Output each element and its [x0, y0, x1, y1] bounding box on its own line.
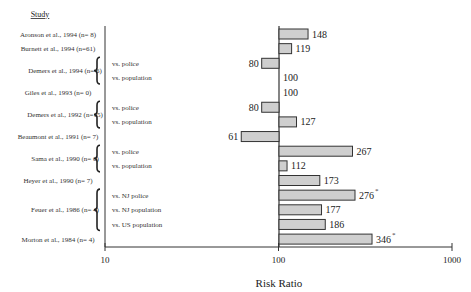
value-label: 148	[312, 29, 327, 40]
subgroup-label: vs. NJ police	[112, 192, 148, 200]
study-label: Giles et al., 1993 (n= 0)	[25, 89, 92, 97]
value-label: 119	[296, 43, 311, 54]
value-label: 80	[249, 58, 259, 69]
subgroup-label: vs. population	[112, 118, 152, 126]
subgroup-label: vs. population	[112, 74, 152, 82]
x-axis-label: Risk Ratio	[256, 277, 303, 289]
risk-ratio-bar	[279, 117, 297, 127]
risk-ratio-bar	[279, 176, 320, 186]
value-label: 100	[283, 87, 298, 98]
study-label: Demers et al., 1992 (n=15)	[27, 111, 103, 119]
risk-ratio-bar	[279, 29, 308, 39]
risk-ratio-bar	[279, 219, 325, 229]
study-label: Feuer et al., 1986 (n= 4)	[31, 206, 100, 214]
forest-bar-chart: Study101001000Risk RatioAronson et al., …	[0, 0, 471, 292]
subgroup-label: vs. US population	[112, 221, 163, 229]
study-label: Heyer et al., 1990 (n= 7)	[23, 177, 93, 185]
subgroup-label: vs. population	[112, 162, 152, 170]
risk-ratio-bar	[279, 44, 292, 54]
study-label: Sama et al., 1990 (n= 6)	[31, 155, 99, 163]
x-tick-label: 1000	[443, 255, 462, 265]
value-label: 112	[291, 160, 306, 171]
value-label: 127	[301, 116, 316, 127]
risk-ratio-bar	[279, 146, 352, 156]
subgroup-label: vs. police	[112, 104, 139, 112]
value-label: 276	[359, 190, 374, 201]
subgroup-label: vs. police	[112, 148, 139, 156]
study-label: Demers et al., 1994 (n= 6)	[28, 67, 102, 75]
risk-ratio-bar	[279, 205, 322, 215]
x-tick-label: 100	[272, 255, 286, 265]
value-label: 186	[329, 219, 344, 230]
value-label: 100	[283, 72, 298, 83]
risk-ratio-bar	[241, 132, 279, 142]
study-label: Morton et al., 1984 (n= 4)	[22, 236, 96, 244]
risk-ratio-bar	[262, 58, 279, 68]
significance-marker: *	[392, 231, 396, 239]
subgroup-label: vs. NJ population	[112, 206, 162, 214]
study-label: Burnett et al., 1994 (n=61)	[21, 45, 96, 53]
significance-marker: *	[375, 187, 379, 195]
value-label: 80	[249, 102, 259, 113]
risk-ratio-bar	[279, 161, 287, 171]
value-label: 173	[324, 175, 339, 186]
value-label: 177	[326, 204, 341, 215]
risk-ratio-bar	[279, 190, 355, 200]
value-label: 346	[376, 234, 391, 245]
study-label: Beaumont et al., 1991 (n= 7)	[18, 133, 99, 141]
column-header: Study	[31, 10, 50, 19]
risk-ratio-bar	[262, 102, 279, 112]
subgroup-label: vs. police	[112, 60, 139, 68]
study-label: Aronson et al., 1994 (n= 8)	[20, 31, 97, 39]
risk-ratio-bar	[279, 234, 372, 244]
value-label: 267	[356, 146, 371, 157]
value-label: 61	[228, 131, 238, 142]
x-tick-label: 10	[101, 255, 111, 265]
